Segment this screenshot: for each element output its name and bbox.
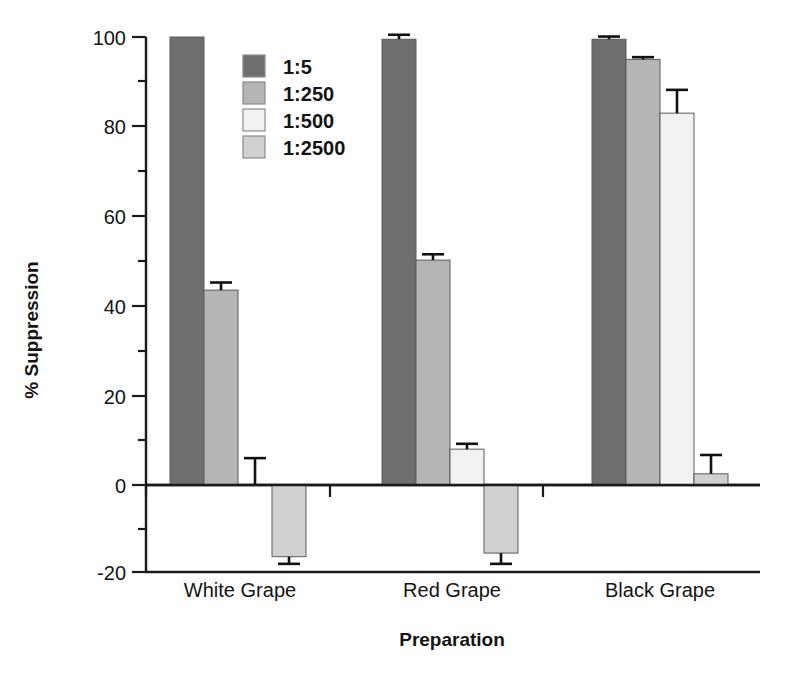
- bar-black-grape-1-500: [660, 113, 694, 485]
- y-tick-label-60: 60: [104, 206, 126, 228]
- bar-red-grape-1-5: [382, 39, 416, 485]
- y-tick-label-20: 20: [104, 386, 126, 408]
- legend-label-1-2500: 1:2500: [283, 137, 345, 159]
- x-axis-title: Preparation: [399, 629, 505, 650]
- legend-swatch-1-5: [243, 55, 265, 77]
- bar-black-grape-1-250: [626, 59, 660, 485]
- y-tick-label-100: 100: [93, 27, 126, 49]
- bar-red-grape-1-500: [450, 449, 484, 485]
- chart-figure: 100 80 60 40 20 0 -20 % Suppression Whit…: [0, 0, 788, 691]
- bar-red-grape-1-250: [416, 260, 450, 485]
- legend-label-1-5: 1:5: [283, 56, 312, 78]
- x-category-label-red-grape: Red Grape: [403, 579, 501, 601]
- y-tick-label-0: 0: [115, 475, 126, 497]
- legend-label-1-500: 1:500: [283, 110, 334, 132]
- legend-label-1-250: 1:250: [283, 83, 334, 105]
- x-category-label-white-grape: White Grape: [184, 579, 296, 601]
- bar-red-grape-1-2500: [484, 485, 518, 553]
- bar-white-grape-1-2500: [272, 485, 306, 557]
- y-tick-label-80: 80: [104, 116, 126, 138]
- y-tick-label-40: 40: [104, 296, 126, 318]
- legend-swatch-1-250: [243, 82, 265, 104]
- bar-white-grape-1-250: [204, 290, 238, 485]
- bar-chart-svg: 100 80 60 40 20 0 -20 % Suppression Whit…: [0, 0, 788, 691]
- bar-black-grape-1-2500: [694, 474, 728, 485]
- legend-swatch-1-500: [243, 109, 265, 131]
- x-category-label-black-grape: Black Grape: [605, 579, 715, 601]
- bar-black-grape-1-5: [592, 39, 626, 485]
- bar-white-grape-1-5: [170, 37, 204, 485]
- legend-swatch-1-2500: [243, 136, 265, 158]
- y-tick-label-neg20: -20: [97, 562, 126, 584]
- y-axis-title: % Suppression: [21, 261, 42, 398]
